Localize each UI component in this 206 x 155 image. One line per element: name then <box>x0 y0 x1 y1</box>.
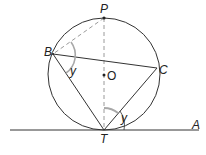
chord-bc <box>53 54 157 68</box>
point-o <box>103 74 106 77</box>
point-p <box>102 16 105 19</box>
label-p: P <box>100 2 108 16</box>
diagram-svg: P B C O T A y y <box>0 0 206 155</box>
chord-pb-dashed <box>53 18 104 54</box>
chord-bt <box>53 54 104 130</box>
label-b: B <box>44 45 52 59</box>
label-t: T <box>100 132 109 146</box>
label-angle-t: y <box>120 111 128 125</box>
label-a: A <box>191 118 200 132</box>
angle-arc-t-grey <box>104 108 118 113</box>
label-c: C <box>159 63 168 77</box>
circle-theorem-diagram: P B C O T A y y <box>0 0 206 155</box>
label-angle-b: y <box>69 64 77 78</box>
label-o: O <box>107 69 116 83</box>
point-b <box>52 53 54 55</box>
